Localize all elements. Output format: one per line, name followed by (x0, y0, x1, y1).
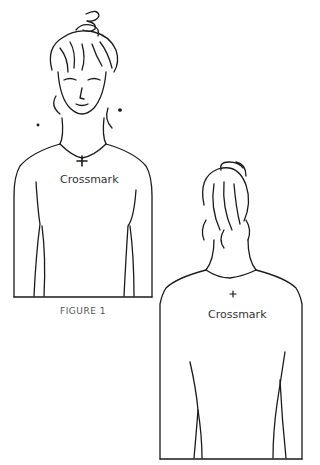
front-figure (14, 11, 152, 297)
front-crossmark-label: Crossmark (60, 173, 119, 186)
figure-caption: FIGURE 1 (60, 306, 106, 316)
back-crossmark-label: Crossmark (208, 308, 267, 321)
back-crossmark-icon (230, 291, 236, 297)
diagram-canvas (0, 0, 320, 465)
